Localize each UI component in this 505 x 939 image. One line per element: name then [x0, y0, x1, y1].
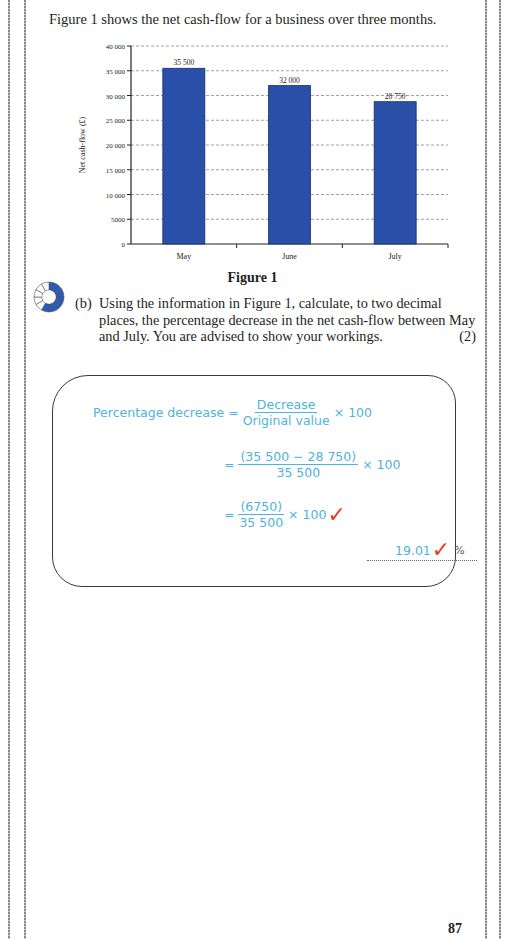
svg-text:Net cash-flow (£): Net cash-flow (£): [78, 116, 87, 173]
answer-value: 19.01: [395, 543, 431, 558]
formula-multiplier: × 100: [334, 405, 372, 420]
question-text: Using the information in Figure 1, calcu…: [99, 295, 480, 345]
fraction-numerator: Decrease: [255, 398, 318, 413]
final-answer: 19.01 ✓ %: [395, 542, 465, 558]
question-b: (b) Using the information in Figure 1, c…: [75, 295, 480, 345]
svg-text:5000: 5000: [111, 216, 126, 224]
svg-text:15 000: 15 000: [106, 167, 126, 175]
svg-text:July: July: [388, 252, 401, 261]
svg-text:0: 0: [122, 241, 126, 249]
question-label: (b): [75, 295, 92, 312]
svg-text:May: May: [176, 252, 191, 261]
fraction-denominator: Original value: [243, 413, 330, 427]
fraction-denominator: 35 500: [239, 515, 283, 529]
svg-text:25 000: 25 000: [106, 117, 126, 125]
svg-text:40 000: 40 000: [106, 43, 126, 51]
question-marks: (2): [459, 328, 476, 345]
figure-caption: Figure 1: [0, 270, 505, 286]
fraction-denominator: 35 500: [276, 465, 320, 479]
percent-unit: %: [454, 544, 464, 557]
working-line-2: = (35 500 − 28 750) 35 500 × 100: [224, 450, 400, 479]
formula-multiplier: × 100: [362, 457, 400, 472]
equals-sign: =: [224, 457, 234, 472]
page-number: 87: [448, 921, 462, 937]
svg-text:35 500: 35 500: [174, 58, 195, 67]
svg-text:28 750: 28 750: [385, 92, 406, 101]
formula-lhs: Percentage decrease =: [93, 405, 239, 420]
answer-line[interactable]: [367, 560, 477, 561]
difficulty-dial-icon: [32, 280, 66, 314]
equals-sign: =: [224, 507, 234, 522]
net-cash-flow-chart: 0500010 00015 00020 00025 00030 00035 00…: [0, 0, 505, 270]
svg-text:10 000: 10 000: [106, 192, 126, 200]
svg-text:June: June: [282, 252, 297, 261]
check-mark-icon: ✓: [327, 507, 345, 523]
working-line-3: = (6750) 35 500 × 100 ✓: [224, 500, 346, 529]
working-line-1: Percentage decrease = Decrease Original …: [93, 398, 372, 427]
calculation-fraction: (6750) 35 500: [238, 500, 284, 529]
formula-multiplier: × 100: [288, 507, 326, 522]
svg-text:20 000: 20 000: [106, 142, 126, 150]
svg-text:30 000: 30 000: [106, 93, 126, 101]
substitution-fraction: (35 500 − 28 750) 35 500: [238, 450, 358, 479]
svg-text:35 000: 35 000: [106, 68, 126, 76]
check-mark-icon: ✓: [432, 542, 450, 558]
formula-fraction: Decrease Original value: [243, 398, 330, 427]
fraction-numerator: (35 500 − 28 750): [238, 450, 358, 465]
svg-text:32 000: 32 000: [279, 76, 300, 85]
fraction-numerator: (6750): [238, 500, 284, 515]
